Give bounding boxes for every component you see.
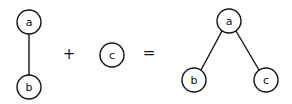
svg-text:b: b	[191, 74, 198, 87]
node-a: a	[217, 9, 241, 33]
left-tree: a b	[17, 10, 41, 99]
tree-merge-diagram: a b + c = a b c	[0, 0, 292, 104]
svg-text:a: a	[226, 15, 233, 28]
equals-operator: =	[143, 44, 156, 62]
edge-a-c	[236, 31, 259, 70]
node-b: b	[182, 68, 206, 92]
node-a: a	[17, 10, 41, 34]
result-tree: a b c	[182, 9, 278, 92]
node-b: b	[17, 75, 41, 99]
svg-text:c: c	[109, 49, 115, 62]
svg-text:c: c	[263, 74, 269, 87]
node-c: c	[254, 68, 278, 92]
edge-a-b	[201, 31, 222, 70]
svg-text:b: b	[26, 81, 33, 94]
plus-operator: +	[63, 45, 76, 63]
middle-tree: c	[100, 43, 124, 67]
svg-text:a: a	[26, 16, 33, 29]
node-c: c	[100, 43, 124, 67]
